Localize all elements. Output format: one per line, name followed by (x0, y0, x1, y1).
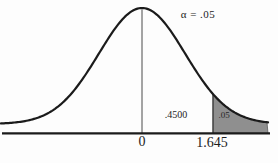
tail-area-label: .05 (218, 111, 229, 120)
normal-curve-figure: α = .05 .4500 .05 0 1.645 (0, 0, 278, 163)
center-area-label: .4500 (165, 110, 188, 120)
alpha-label: α = .05 (181, 9, 216, 20)
x-tick-zero: 0 (139, 135, 146, 149)
bell-curve-path (1, 8, 268, 123)
x-tick-critical: 1.645 (196, 136, 228, 150)
